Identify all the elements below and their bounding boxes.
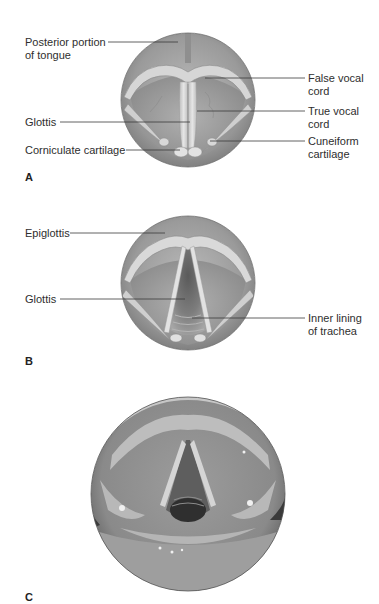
label-posterior-portion-of-tongue: Posterior portion of tongue bbox=[25, 36, 106, 61]
label-line: Posterior portion bbox=[25, 36, 106, 49]
label-line: True vocal bbox=[308, 105, 359, 118]
label-line: cartilage bbox=[308, 148, 359, 161]
label-line: Inner lining bbox=[308, 312, 362, 325]
label-epiglottis: Epiglottis bbox=[25, 227, 70, 240]
label-line: False vocal bbox=[308, 72, 364, 85]
panel-c-photograph bbox=[86, 385, 290, 600]
label-true-vocal-cord: True vocal cord bbox=[308, 105, 359, 130]
label-cuneiform-cartilage: Cuneiform cartilage bbox=[308, 135, 359, 160]
label-line: Epiglottis bbox=[25, 227, 70, 240]
label-line: of tongue bbox=[25, 49, 106, 62]
label-line: Glottis bbox=[25, 116, 56, 129]
label-line: cord bbox=[308, 118, 359, 131]
panel-a-illustration bbox=[121, 33, 255, 167]
label-line: Corniculate cartilage bbox=[25, 144, 125, 157]
panel-letter-a: A bbox=[25, 171, 33, 183]
panel-letter-b: B bbox=[25, 355, 33, 367]
label-line: Glottis bbox=[25, 293, 56, 306]
label-glottis-b: Glottis bbox=[25, 293, 56, 306]
panel-b-illustration bbox=[121, 216, 255, 350]
panel-letter-c: C bbox=[25, 591, 33, 603]
label-corniculate-cartilage: Corniculate cartilage bbox=[25, 144, 125, 157]
label-inner-lining-of-trachea: Inner lining of trachea bbox=[308, 312, 362, 337]
label-line: Cuneiform bbox=[308, 135, 359, 148]
label-line: of trachea bbox=[308, 325, 362, 338]
label-line: cord bbox=[308, 85, 364, 98]
label-glottis-a: Glottis bbox=[25, 116, 56, 129]
label-false-vocal-cord: False vocal cord bbox=[308, 72, 364, 97]
